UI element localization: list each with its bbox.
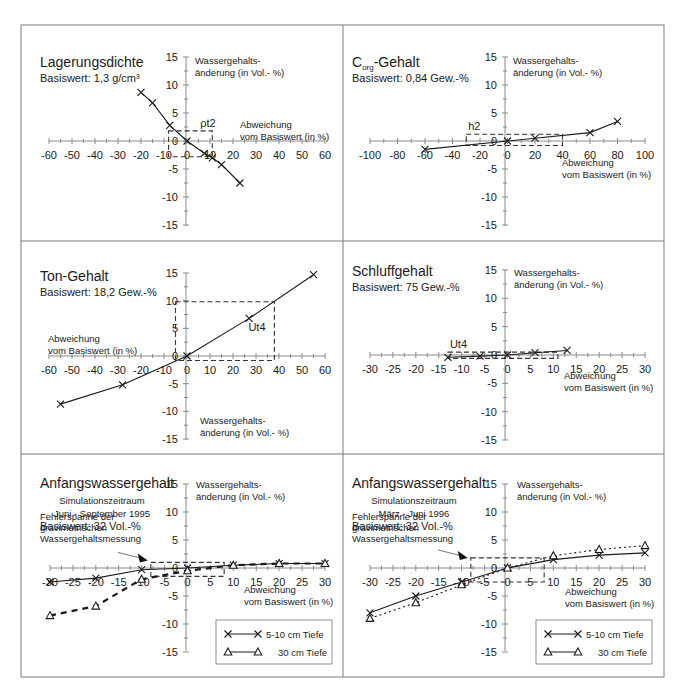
x-tick-label: 20: [529, 149, 541, 161]
x-tick-label: -5: [480, 363, 490, 375]
y-axis-title: Wassergehalts-: [513, 55, 579, 66]
y-tick-label: 10: [166, 295, 178, 307]
chart-panel-1: LagerungsdichteBasiswert: 1,3 g/cm³-60-5…: [40, 51, 331, 231]
y-tick-label: -10: [162, 405, 178, 417]
x-tick-label: -25: [65, 576, 81, 588]
figure-canvas: LagerungsdichteBasiswert: 1,3 g/cm³-60-5…: [0, 0, 688, 686]
simulation-period-label: Simulationszeitraum: [59, 495, 145, 506]
y-axis-title: änderung (in Vol.- %): [195, 67, 284, 78]
x-tick-label: -100: [359, 149, 381, 161]
y-tick-label: 15: [485, 264, 497, 276]
x-axis-title: vom Basiswert (in %): [240, 131, 329, 142]
chart-panel-4: SchluffgehaltBasiswert: 75 Gew.-%-30-25-…: [352, 263, 653, 446]
x-tick-label: -15: [431, 363, 447, 375]
x-tick-label: -40: [87, 364, 103, 376]
x-tick-label: 5: [207, 576, 213, 588]
x-tick-label: -30: [110, 364, 126, 376]
y-tick-label: -5: [168, 163, 178, 175]
x-tick-label: -60: [41, 149, 57, 161]
legend: 5-10 cm Tiefe30 cm Tiefe: [216, 620, 332, 664]
y-tick-label: -15: [481, 646, 497, 658]
x-tick-label: 30: [639, 576, 651, 588]
panel-title: Ton-Gehalt: [40, 268, 109, 284]
x-tick-label: -80: [390, 149, 406, 161]
y-tick-label: 5: [491, 534, 497, 546]
arrow-icon: [458, 551, 468, 560]
panel-title: Corg-Gehalt: [352, 54, 420, 72]
x-tick-label: 100: [636, 149, 654, 161]
x-tick-label: 25: [616, 576, 628, 588]
x-tick-label: 30: [250, 149, 262, 161]
arrow-icon: [138, 553, 148, 562]
x-tick-label: 10: [547, 576, 559, 588]
y-tick-label: 10: [166, 79, 178, 91]
x-tick-label: -40: [445, 149, 461, 161]
y-tick-label: 10: [485, 506, 497, 518]
x-tick-label: 40: [273, 149, 285, 161]
y-tick-label: 10: [485, 292, 497, 304]
x-tick-label: -50: [64, 364, 80, 376]
base-value: Basiswert: 18,2 Gew.-%: [40, 286, 157, 298]
panel-title: Anfangswassergehalt: [40, 475, 174, 491]
y-tick-label: -15: [481, 434, 497, 446]
x-marker-icon: [614, 118, 621, 125]
x-marker-icon: [310, 271, 317, 278]
x-tick-label: -5: [160, 576, 170, 588]
x-tick-label: 10: [204, 364, 216, 376]
x-tick-label: -15: [431, 576, 447, 588]
chart-panel-2: Corg-GehaltBasiswert: 0,84 Gew.-%-100-80…: [352, 51, 654, 231]
x-tick-label: -10: [454, 363, 470, 375]
x-tick-label: -20: [133, 149, 149, 161]
x-tick-label: 10: [547, 363, 559, 375]
y-tick-label: 10: [166, 506, 178, 518]
y-axis-title: Wassergehalts-: [514, 267, 580, 278]
x-axis-title: vom Basiswert (in %): [564, 382, 653, 393]
x-axis-title: vom Basiswert (in %): [48, 345, 137, 356]
x-tick-label: -60: [417, 149, 433, 161]
x-tick-label: 5: [527, 363, 533, 375]
y-tick-label: 15: [166, 267, 178, 279]
y-tick-label: 15: [485, 478, 497, 490]
y-tick-label: -10: [481, 406, 497, 418]
x-tick-label: 30: [250, 364, 262, 376]
error-span-label: Fehlerspanne der: [352, 511, 426, 522]
chart-panel-3: Ton-GehaltBasiswert: 18,2 Gew.-%-60-50-4…: [40, 267, 331, 445]
x-axis-title: vom Basiswert (in %): [562, 169, 651, 180]
x-tick-label: -50: [64, 149, 80, 161]
x-tick-label: -30: [362, 576, 378, 588]
y-axis-title: änderung (in Vol.- %): [513, 67, 602, 78]
x-marker-icon: [57, 401, 64, 408]
soil-class-label: Ut4: [450, 338, 467, 350]
x-axis-title: Abweichung: [240, 119, 292, 130]
y-tick-label: -5: [487, 163, 497, 175]
legend-label: 5-10 cm Tiefe: [266, 629, 324, 640]
x-tick-label: -25: [385, 576, 401, 588]
chart-panel-6: AnfangswassergehaltSimulationszeitraumMä…: [352, 475, 654, 664]
triangle-marker-icon: [595, 546, 603, 553]
y-axis-title: änderung (in Vol.- %): [517, 491, 606, 502]
y-tick-label: -15: [162, 646, 178, 658]
x-axis-title: Abweichung: [244, 584, 296, 595]
soil-class-label: ρt2: [200, 117, 215, 129]
base-value: Basiswert: 75 Gew.-%: [352, 281, 460, 293]
y-tick-label: 15: [485, 51, 497, 63]
x-marker-icon: [218, 161, 225, 168]
soil-class-label: h2: [468, 120, 480, 132]
y-tick-label: -10: [162, 618, 178, 630]
x-marker-icon: [166, 122, 173, 129]
y-axis-title: änderung (in Vol.- %): [514, 279, 603, 290]
x-tick-label: 25: [616, 363, 628, 375]
x-tick-label: -15: [111, 576, 127, 588]
x-tick-label: 50: [296, 364, 308, 376]
x-tick-label: -20: [408, 363, 424, 375]
legend-label: 5-10 cm Tiefe: [586, 629, 644, 640]
x-axis-title: Abweichung: [564, 370, 616, 381]
x-axis-title: vom Basiswert (in %): [565, 598, 654, 609]
x-axis-title: Abweichung: [565, 586, 617, 597]
y-tick-label: 0: [172, 135, 178, 147]
chart-panel-5: AnfangswassergehaltSimulationszeitraumJu…: [40, 475, 333, 664]
x-tick-label: -25: [385, 363, 401, 375]
legend: 5-10 cm Tiefe30 cm Tiefe: [536, 620, 652, 664]
x-tick-label: 30: [639, 363, 651, 375]
x-tick-label: 10: [227, 576, 239, 588]
